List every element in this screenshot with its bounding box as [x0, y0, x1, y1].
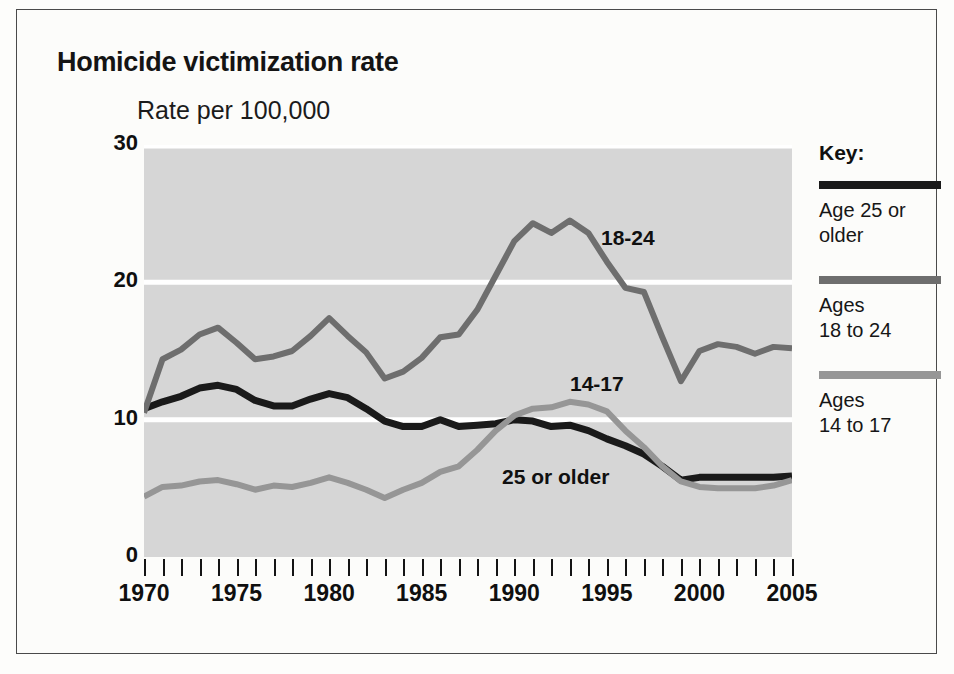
legend-entries: Age 25 orolderAges18 to 24Ages14 to 17 [819, 181, 947, 438]
series-line-25-or-older [144, 385, 792, 480]
series-line-18-24 [144, 221, 792, 413]
x-tick-1986 [440, 559, 442, 576]
x-tick-1984 [403, 559, 405, 576]
x-tick-1975 [237, 559, 239, 576]
x-tick-1977 [274, 559, 276, 576]
x-tick-1972 [181, 559, 183, 576]
x-tick-2004 [773, 559, 775, 576]
x-tick-1980 [329, 559, 331, 576]
figure-frame: Homicide victimization rate Rate per 100… [16, 9, 937, 654]
legend-entry-2[interactable]: Ages14 to 17 [819, 371, 947, 438]
y-axis-title: Rate per 100,000 [137, 96, 330, 125]
x-tick-label-1995: 1995 [581, 580, 632, 607]
x-tick-label-1975: 1975 [211, 580, 262, 607]
legend-entry-1[interactable]: Ages18 to 24 [819, 276, 947, 343]
plot-svg [144, 145, 792, 557]
series-lines [144, 221, 792, 498]
x-tick-2002 [736, 559, 738, 576]
x-tick-1996 [625, 559, 627, 576]
y-tick-label-0: 0 [94, 542, 138, 568]
x-tick-1974 [218, 559, 220, 576]
x-tick-2003 [755, 559, 757, 576]
legend-entry-0[interactable]: Age 25 orolder [819, 181, 947, 248]
x-tick-1976 [255, 559, 257, 576]
legend-label-1: Ages18 to 24 [819, 293, 947, 343]
x-tick-2001 [718, 559, 720, 576]
x-tick-1988 [477, 559, 479, 576]
x-tick-1995 [607, 559, 609, 576]
x-tick-label-1985: 1985 [396, 580, 447, 607]
legend-label-0: Age 25 orolder [819, 198, 947, 248]
y-axis: 0102030 [84, 10, 138, 674]
legend-heading: Key: [819, 141, 947, 165]
x-tick-1971 [163, 559, 165, 576]
x-tick-1979 [311, 559, 313, 576]
legend: Key: Age 25 orolderAges18 to 24Ages14 to… [819, 141, 947, 466]
x-axis-ticks [144, 559, 792, 576]
page-canvas: Homicide victimization rate Rate per 100… [0, 0, 954, 674]
series-annotation-18-24: 18-24 [601, 226, 655, 250]
x-tick-1983 [385, 559, 387, 576]
x-tick-label-2005: 2005 [766, 580, 817, 607]
x-tick-1970 [144, 559, 146, 576]
x-tick-1991 [533, 559, 535, 576]
x-tick-1978 [292, 559, 294, 576]
x-tick-2000 [699, 559, 701, 576]
x-tick-1989 [496, 559, 498, 576]
x-tick-1997 [644, 559, 646, 576]
y-tick-label-20: 20 [94, 267, 138, 293]
legend-swatch-2 [819, 371, 941, 379]
x-tick-1998 [662, 559, 664, 576]
x-tick-1993 [570, 559, 572, 576]
x-axis-labels: 19701975198019851990199520002005 [144, 580, 844, 612]
series-annotation-25-or-older: 25 or older [502, 465, 609, 489]
gridlines [144, 146, 792, 420]
x-tick-1973 [200, 559, 202, 576]
series-annotation-14-17: 14-17 [570, 372, 624, 396]
x-tick-label-2000: 2000 [674, 580, 725, 607]
x-tick-1987 [459, 559, 461, 576]
y-tick-label-10: 10 [94, 405, 138, 431]
legend-label-2: Ages14 to 17 [819, 388, 947, 438]
x-tick-label-1980: 1980 [304, 580, 355, 607]
x-tick-1990 [514, 559, 516, 576]
plot-area [144, 145, 792, 557]
legend-swatch-1 [819, 276, 941, 284]
x-tick-label-1970: 1970 [118, 580, 169, 607]
x-tick-1985 [422, 559, 424, 576]
x-tick-label-1990: 1990 [489, 580, 540, 607]
x-tick-1982 [366, 559, 368, 576]
legend-swatch-0 [819, 181, 941, 189]
x-tick-1992 [551, 559, 553, 576]
x-tick-2005 [792, 559, 794, 576]
x-tick-1999 [681, 559, 683, 576]
x-tick-1994 [588, 559, 590, 576]
series-line-14-17 [144, 402, 792, 498]
x-tick-1981 [348, 559, 350, 576]
y-tick-label-30: 30 [94, 130, 138, 156]
